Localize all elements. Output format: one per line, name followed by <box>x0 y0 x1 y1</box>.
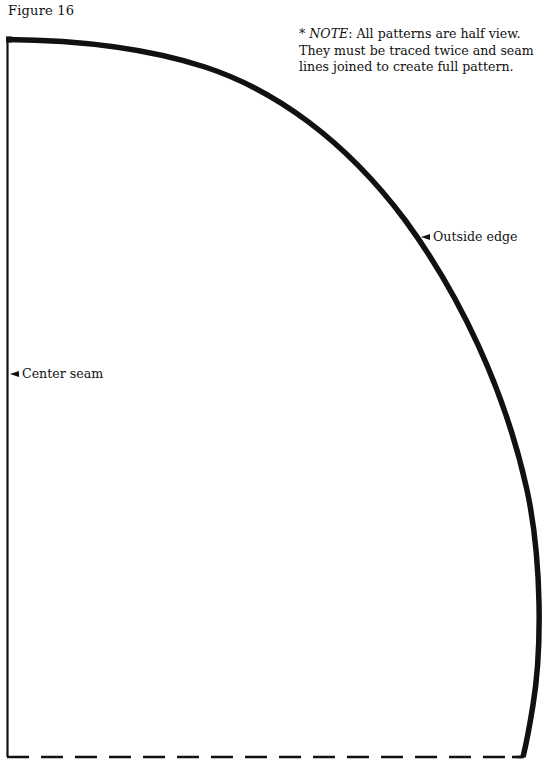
outside-edge-curve <box>7 40 539 758</box>
top-left-corner <box>6 37 12 43</box>
pattern-diagram <box>0 0 544 769</box>
center-seam-text: Center seam <box>22 366 103 381</box>
outside-edge-label: Outside edge <box>421 229 518 244</box>
outside-edge-text: Outside edge <box>433 229 518 244</box>
left-pointer-icon <box>10 371 19 377</box>
left-pointer-icon <box>421 234 430 240</box>
center-seam-label: Center seam <box>10 366 103 381</box>
